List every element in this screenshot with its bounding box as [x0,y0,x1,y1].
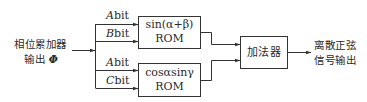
bit-var: A [106,56,114,69]
rom-bottom-output [201,61,241,81]
bit-label-b: Bbit [106,27,129,40]
bit-suffix: bit [114,9,129,22]
input-label-line1: 相位累加器 [14,38,67,51]
input-label-prefix: 输出 [24,53,49,65]
bit-suffix: bit [114,27,129,40]
rom-top-function: sin(α+β) [138,18,201,32]
rom-top-type: ROM [138,32,201,46]
rom-top-label: sin(α+β) ROM [138,18,201,46]
bit-label-a-top: Abit [106,9,129,22]
bit-var: B [106,27,114,40]
phi-symbol: Φ [49,53,59,65]
bit-suffix: bit [114,74,129,87]
bit-suffix: bit [114,56,129,69]
rom-bottom-label: cosαsinγ ROM [138,66,201,94]
rom-bottom-type: ROM [138,80,201,94]
rom-bottom-function: cosαsinγ [138,66,201,80]
output-label-line1: 离散正弦 [314,39,356,52]
rom-top-output [201,33,241,45]
output-label-line2: 信号输出 [314,54,356,67]
bit-var: A [106,9,114,22]
bit-label-a-bottom: Abit [106,56,129,69]
input-label-line2: 输出 Φ [24,53,59,66]
adder-label: 加法器 [240,46,288,60]
bit-label-c: Cbit [106,74,129,87]
